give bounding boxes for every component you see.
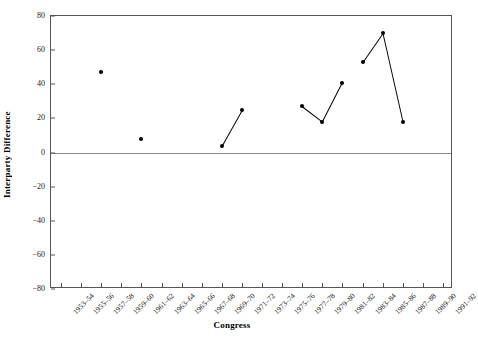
x-axis-tick-mark — [242, 283, 243, 287]
x-axis-tick-label: 1959–60 — [132, 292, 156, 316]
x-axis-tick-label: 1981–82 — [353, 292, 377, 316]
x-axis-tick-label: 1985–86 — [393, 292, 417, 316]
x-axis-tick-label: 1963–64 — [172, 292, 196, 316]
x-axis-tick-label: 1957–58 — [112, 292, 136, 316]
y-axis-tick-label: 0 — [41, 149, 51, 157]
x-axis-tick-mark — [322, 283, 323, 287]
x-axis-tick-label: 1977–78 — [313, 292, 337, 316]
y-axis-tick-mark — [51, 186, 55, 187]
x-axis-tick-label: 1979–80 — [333, 292, 357, 316]
plot-area: 806040200−20−40−60−80 — [50, 15, 452, 288]
x-axis-tick-mark — [202, 283, 203, 287]
y-axis-tick-label: −40 — [32, 217, 51, 225]
data-point-marker — [99, 70, 103, 74]
y-axis-tick-mark — [51, 118, 55, 119]
x-axis-tick-mark — [81, 283, 82, 287]
x-axis-tick-label: 1991–92 — [454, 292, 478, 316]
x-axis-tick-mark — [342, 283, 343, 287]
y-axis-tick-mark — [51, 289, 55, 290]
x-axis-tick-label: 1989–90 — [434, 292, 458, 316]
x-axis-tick-mark — [403, 283, 404, 287]
y-axis-tick-label: −80 — [32, 285, 51, 293]
series-line-segment — [362, 33, 383, 63]
x-axis-tick-mark — [101, 283, 102, 287]
series-line-segment — [322, 83, 343, 123]
x-axis-tick-mark — [383, 283, 384, 287]
x-axis-tick-label: 1969–70 — [233, 292, 257, 316]
y-axis-tick-label: −60 — [32, 251, 51, 259]
zero-reference-line — [51, 153, 451, 154]
x-axis-tick-label: 1953–54 — [72, 292, 96, 316]
x-axis-tick-label: 1971–72 — [253, 292, 277, 316]
x-axis-tick-label: 1967–68 — [212, 292, 236, 316]
y-axis-tick-mark — [51, 84, 55, 85]
data-point-marker — [401, 120, 405, 124]
x-axis-tick-mark — [423, 283, 424, 287]
y-axis-tick-mark — [51, 50, 55, 51]
x-axis-tick-mark — [282, 283, 283, 287]
x-axis-tick-label: 1987–88 — [413, 292, 437, 316]
x-axis-tick-mark — [182, 283, 183, 287]
x-axis-tick-mark — [443, 283, 444, 287]
x-axis-tick-label: 1965–66 — [192, 292, 216, 316]
series-line-segment — [221, 110, 242, 146]
series-line-segment — [382, 33, 403, 122]
y-axis-tick-label: 40 — [37, 80, 51, 88]
data-point-marker — [240, 108, 244, 112]
x-axis-tick-mark — [141, 283, 142, 287]
y-axis-title: Interparty Difference — [2, 60, 12, 250]
x-axis-tick-label: 1983–84 — [373, 292, 397, 316]
x-axis-tick-mark — [121, 283, 122, 287]
x-axis-title: Congress — [0, 320, 464, 330]
x-axis-tick-label: 1975–76 — [293, 292, 317, 316]
x-axis-tick-mark — [262, 283, 263, 287]
x-axis-tick-mark — [61, 283, 62, 287]
x-axis-tick-label: 1973–74 — [273, 292, 297, 316]
x-axis-tick-mark — [162, 283, 163, 287]
x-axis-tick-mark — [302, 283, 303, 287]
data-point-marker — [139, 137, 143, 141]
data-point-marker — [340, 81, 344, 85]
data-point-marker — [320, 120, 324, 124]
data-point-marker — [381, 31, 385, 35]
x-axis-tick-label: 1961–62 — [152, 292, 176, 316]
y-axis-tick-mark — [51, 16, 55, 17]
data-point-marker — [220, 144, 224, 148]
x-axis-tick-mark — [363, 283, 364, 287]
data-point-marker — [361, 60, 365, 64]
y-axis-tick-label: −20 — [32, 183, 51, 191]
x-axis-tick-mark — [222, 283, 223, 287]
y-axis-tick-mark — [51, 220, 55, 221]
data-point-marker — [300, 104, 304, 108]
y-axis-tick-mark — [51, 254, 55, 255]
y-axis-tick-label: 20 — [37, 114, 51, 122]
y-axis-tick-label: 60 — [37, 46, 51, 54]
x-axis-tick-label: 1955–56 — [92, 292, 116, 316]
y-axis-tick-label: 80 — [37, 12, 51, 20]
y-axis-tick-mark — [51, 152, 55, 153]
